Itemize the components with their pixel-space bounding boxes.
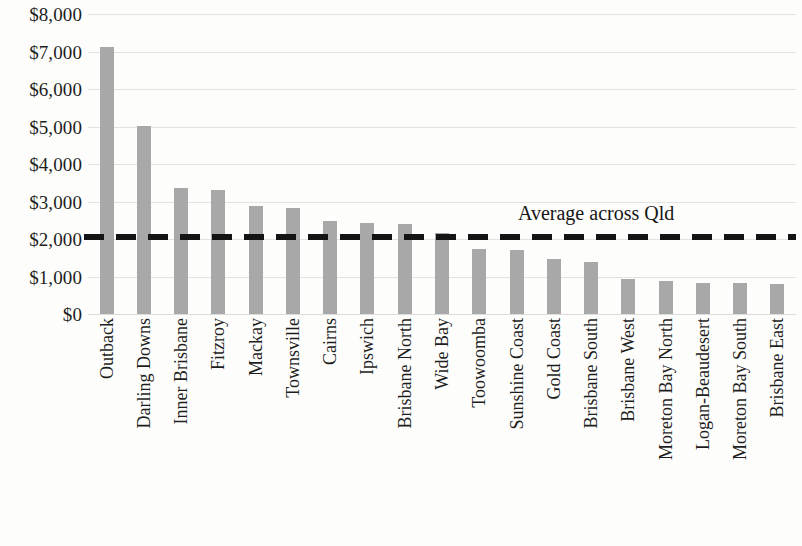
- y-axis-tick-label: $6,000: [0, 80, 82, 99]
- bar: [584, 262, 598, 314]
- x-axis-tick-label: Sunshine Coast: [508, 318, 526, 430]
- x-axis-tick-label: Gold Coast: [545, 318, 563, 400]
- x-axis-tick: Townsville: [283, 318, 303, 538]
- x-axis-tick-label: Darling Downs: [135, 318, 153, 429]
- x-axis-tick: Wide Bay: [432, 318, 452, 538]
- x-axis-tick: Outback: [97, 318, 117, 538]
- bar: [211, 190, 225, 315]
- x-axis-tick-label: Townsville: [284, 318, 302, 398]
- bar: [621, 279, 635, 314]
- y-axis-tick-label: $4,000: [0, 155, 82, 174]
- x-axis-tick-label: Mackay: [247, 318, 265, 376]
- x-axis-tick-label: Brisbane South: [582, 318, 600, 429]
- bar: [100, 47, 114, 314]
- x-axis-tick-label: Moreton Bay South: [731, 318, 749, 460]
- x-axis: OutbackDarling DownsInner BrisbaneFitzro…: [88, 318, 796, 540]
- x-axis-tick-label: Wide Bay: [433, 318, 451, 390]
- x-axis-tick-label: Brisbane West: [619, 318, 637, 422]
- x-axis-tick: Toowoomba: [469, 318, 489, 538]
- bar: [510, 250, 524, 314]
- average-reference-line: [84, 234, 796, 240]
- x-axis-tick: Ipswich: [357, 318, 377, 538]
- x-axis-tick-label: Fitzroy: [209, 318, 227, 370]
- y-axis-tick-label: $3,000: [0, 193, 82, 212]
- x-axis-tick: Inner Brisbane: [171, 318, 191, 538]
- bar: [435, 233, 449, 314]
- y-axis-tick-label: $2,000: [0, 230, 82, 249]
- x-axis-tick-label: Brisbane East: [768, 318, 786, 417]
- y-axis-tick-label: $5,000: [0, 118, 82, 137]
- x-axis-tick-label: Toowoomba: [470, 318, 488, 408]
- average-reference-line-label: Average across Qld: [518, 203, 674, 223]
- bar: [472, 249, 486, 314]
- y-axis-tick-label: $1,000: [0, 268, 82, 287]
- bar-chart: $8,000$7,000$6,000$5,000$4,000$3,000$2,0…: [0, 0, 802, 546]
- bar: [174, 188, 188, 314]
- x-axis-tick: Gold Coast: [544, 318, 564, 538]
- x-axis-tick: Brisbane West: [618, 318, 638, 538]
- y-axis-tick-label: $8,000: [0, 5, 82, 24]
- x-axis-tick-label: Inner Brisbane: [172, 318, 190, 424]
- bar: [770, 284, 784, 314]
- x-axis-tick: Fitzroy: [208, 318, 228, 538]
- y-axis-tick-label: $7,000: [0, 43, 82, 62]
- x-axis-tick: Brisbane North: [395, 318, 415, 538]
- x-axis-tick-label: Ipswich: [358, 318, 376, 375]
- x-axis-tick-label: Cairns: [321, 318, 339, 365]
- bar: [286, 208, 300, 314]
- x-axis-tick: Brisbane South: [581, 318, 601, 538]
- x-axis-tick: Brisbane East: [767, 318, 787, 538]
- x-axis-tick: Moreton Bay North: [656, 318, 676, 538]
- y-axis: $8,000$7,000$6,000$5,000$4,000$3,000$2,0…: [0, 0, 82, 330]
- plot-area: Average across Qld: [88, 14, 796, 314]
- bars-group: [88, 14, 796, 314]
- x-axis-tick: Cairns: [320, 318, 340, 538]
- x-axis-tick: Mackay: [246, 318, 266, 538]
- y-axis-tick-label: $0: [0, 305, 82, 324]
- x-axis-tick: Moreton Bay South: [730, 318, 750, 538]
- gridline: [88, 314, 796, 315]
- bar: [137, 126, 151, 314]
- x-axis-tick: Darling Downs: [134, 318, 154, 538]
- x-axis-tick-label: Logan-Beaudesert: [694, 318, 712, 450]
- bar: [249, 206, 263, 314]
- bar: [547, 259, 561, 314]
- x-axis-tick: Sunshine Coast: [507, 318, 527, 538]
- bar: [733, 283, 747, 315]
- bar: [659, 281, 673, 314]
- bar: [696, 283, 710, 315]
- x-axis-tick-label: Outback: [98, 318, 116, 379]
- x-axis-tick: Logan-Beaudesert: [693, 318, 713, 538]
- x-axis-tick-label: Moreton Bay North: [657, 318, 675, 460]
- x-axis-tick-label: Brisbane North: [396, 318, 414, 428]
